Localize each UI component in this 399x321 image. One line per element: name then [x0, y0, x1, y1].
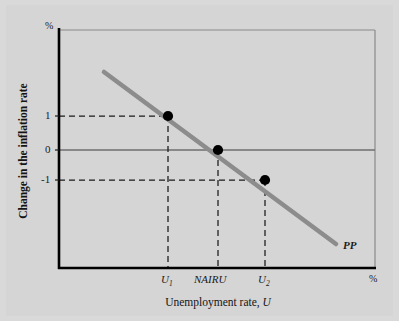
pp-curve-label: PP [343, 240, 356, 251]
figure-container: % 1 0 -1 U1 NAIRU U2 % PP Change in the … [0, 0, 399, 321]
x-tick-label-u1: U1 [161, 274, 173, 288]
x-tick-u1-subscript: 1 [169, 279, 173, 288]
x-tick-label-nairu: NAIRU [194, 274, 226, 285]
y-tick-label-0: 0 [45, 144, 51, 155]
data-point-u2 [260, 175, 270, 185]
x-axis-unit-label: % [369, 274, 377, 284]
pp-curve [104, 72, 336, 244]
y-tick-label-minus-1: -1 [41, 174, 50, 185]
y-axis-title-wrapper: Change in the inflation rate [13, 56, 31, 246]
y-axis-unit-label: % [45, 21, 53, 31]
x-axis-title: Unemployment rate, U [60, 296, 376, 308]
x-axis-title-symbol-text: U [263, 296, 271, 308]
x-tick-u2-base: U [258, 273, 266, 285]
x-axis-title-text: Unemployment rate, [165, 296, 260, 308]
data-point-u1 [163, 111, 173, 121]
x-tick-u1-base: U [161, 273, 169, 285]
y-tick-label-1: 1 [45, 110, 51, 121]
y-axis-title: Change in the inflation rate [17, 83, 29, 218]
x-axis-title-symbol: U [260, 296, 271, 308]
data-point-nairu [213, 145, 223, 155]
x-tick-label-u2: U2 [258, 274, 270, 288]
x-tick-u2-subscript: 2 [266, 279, 270, 288]
